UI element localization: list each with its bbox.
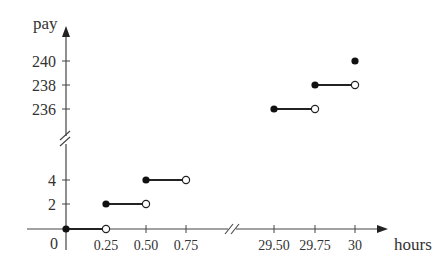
closed-dot-icon	[351, 57, 358, 64]
y-tick-label: 4	[48, 172, 56, 189]
step-function-chart: pay hours 0 0.25 0.50 0.75 29.50 29.75 3…	[0, 0, 442, 269]
open-endpoints	[102, 81, 358, 232]
y-axis-break-icon	[60, 131, 70, 146]
y-tick-label: 238	[32, 77, 56, 94]
open-dot-icon	[351, 81, 358, 88]
closed-dot-icon	[62, 225, 69, 232]
x-axis-arrow-icon	[377, 225, 388, 233]
open-dot-icon	[102, 225, 109, 232]
closed-dot-icon	[102, 200, 109, 207]
y-tick-label: 240	[32, 53, 56, 70]
x-tick-label: 0.25	[94, 238, 119, 253]
y-tick-label: 236	[32, 101, 56, 118]
x-tick-label: 29.75	[299, 238, 331, 253]
closed-dot-icon	[142, 176, 149, 183]
origin-label: 0	[50, 235, 58, 252]
y-axis-label: pay	[33, 14, 58, 33]
open-dot-icon	[142, 200, 149, 207]
y-axis-arrow-icon	[62, 26, 70, 37]
open-dot-icon	[182, 176, 189, 183]
x-tick-label: 30	[348, 238, 362, 253]
closed-dot-icon	[311, 81, 318, 88]
closed-dot-icon	[270, 105, 277, 112]
x-tick-label: 0.75	[174, 238, 199, 253]
x-tick-label: 29.50	[258, 238, 290, 253]
x-tick-label: 0.50	[134, 238, 159, 253]
x-axis-label: hours	[394, 235, 432, 254]
y-tick-label: 2	[48, 196, 56, 213]
closed-endpoints	[62, 57, 358, 232]
open-dot-icon	[311, 105, 318, 112]
